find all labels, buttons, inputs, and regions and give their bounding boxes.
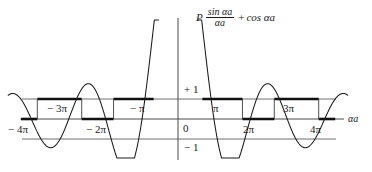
formula-denominator: αa xyxy=(213,18,227,28)
tick-4pi: 4π xyxy=(310,124,321,135)
tick-minus-4pi: − 4π xyxy=(8,124,28,135)
formula-prefactor: P xyxy=(196,12,203,23)
tick-minus-pi: − π xyxy=(130,103,145,114)
tick-2pi: 2π xyxy=(243,124,254,135)
tick-pi: π xyxy=(213,103,219,114)
tick-zero: 0 xyxy=(183,123,189,134)
formula-operator: + xyxy=(238,12,244,23)
tick-minus-2pi: − 2π xyxy=(86,124,106,135)
formula-second-term: cos αa xyxy=(246,12,275,23)
label-minus-one: − 1 xyxy=(184,142,198,153)
x-axis-label: αa xyxy=(348,114,358,124)
label-plus-one: + 1 xyxy=(184,84,198,95)
kronig-penney-figure: P sin αa αa + cos αa + 1 − 1 − 4π − 3π −… xyxy=(0,0,372,172)
tick-minus-3pi: − 3π xyxy=(47,103,67,114)
tick-3pi: 3π xyxy=(283,103,294,114)
formula-label: P sin αa αa + cos αa xyxy=(196,7,275,28)
formula-fraction: sin αa αa xyxy=(206,7,234,28)
